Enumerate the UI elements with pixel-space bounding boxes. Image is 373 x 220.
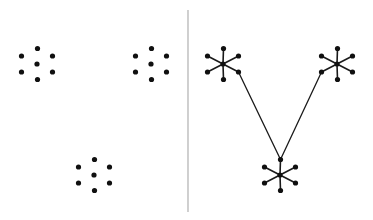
cluster-center-dot (220, 61, 225, 66)
cluster-dot (293, 180, 298, 185)
figure-canvas (0, 0, 373, 220)
cluster-dot (350, 69, 355, 74)
cluster-dot (278, 157, 283, 162)
cluster-dot (164, 69, 169, 74)
cluster-dot (107, 164, 112, 169)
cluster-dot (262, 164, 267, 169)
cluster-dot (76, 164, 81, 169)
cluster-center-dot (334, 61, 339, 66)
cluster-dot (221, 46, 226, 51)
cluster-dot (107, 180, 112, 185)
cluster-dot (133, 53, 138, 58)
cluster-dot (205, 69, 210, 74)
cluster-center-dot (277, 172, 282, 177)
cluster-dot (236, 53, 241, 58)
cluster-dot (35, 77, 40, 82)
cluster-dot (319, 53, 324, 58)
cluster-dot (335, 77, 340, 82)
cluster-dot (133, 69, 138, 74)
cluster-dot (293, 164, 298, 169)
cluster-dot (262, 180, 267, 185)
cluster-dot (92, 157, 97, 162)
figure-root (0, 0, 373, 220)
cluster-dot (149, 46, 154, 51)
cluster-dot (236, 69, 241, 74)
cluster-dot (50, 69, 55, 74)
cluster-dot (164, 53, 169, 58)
cluster-dot (50, 53, 55, 58)
figure-background (0, 0, 373, 220)
cluster-dot (149, 77, 154, 82)
cluster-dot (350, 53, 355, 58)
cluster-dot (319, 69, 324, 74)
cluster-dot (335, 46, 340, 51)
cluster-dot (205, 53, 210, 58)
cluster-dot (19, 53, 24, 58)
cluster-dot (19, 69, 24, 74)
cluster-center-dot (91, 172, 96, 177)
cluster-dot (221, 77, 226, 82)
cluster-center-dot (34, 61, 39, 66)
cluster-dot (278, 188, 283, 193)
cluster-dot (35, 46, 40, 51)
cluster-dot (76, 180, 81, 185)
cluster-dot (92, 188, 97, 193)
cluster-center-dot (148, 61, 153, 66)
